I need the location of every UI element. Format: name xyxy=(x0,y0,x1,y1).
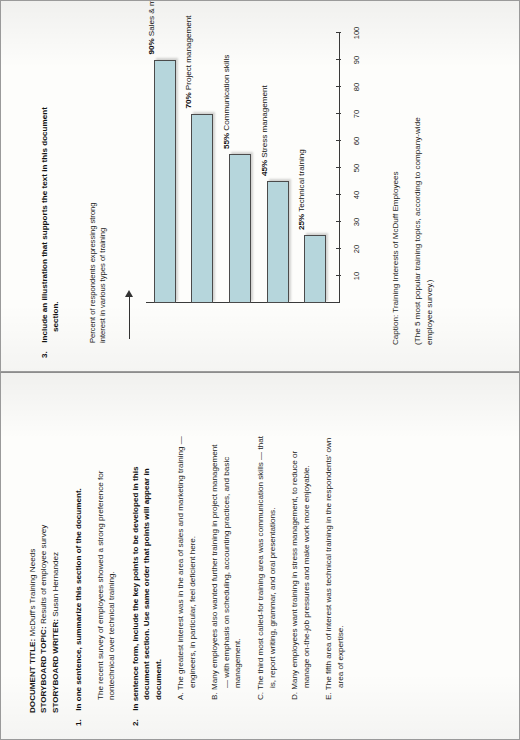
list-item-text: Many employees want training in stress m… xyxy=(290,451,311,690)
list-item-letter: B. xyxy=(210,692,219,700)
chart-axis-caption: Percent of respondents expressing strong… xyxy=(88,193,109,343)
chart-bar-row: 90% Sales & marketing training xyxy=(150,33,188,303)
storyboard-writer-line: STORYBOARD WRITER: Susan Hernandez xyxy=(50,395,61,713)
axis-tick-label: 50 xyxy=(352,164,361,172)
chart-bars: 90% Sales & marketing training70% Projec… xyxy=(150,33,338,303)
chart-bar xyxy=(229,155,251,304)
axis-tick-label: 20 xyxy=(352,245,361,253)
list-item-letter: A. xyxy=(176,692,185,700)
chart-bar xyxy=(154,60,176,303)
list-item: B. Many employees also wanted further tr… xyxy=(209,436,244,700)
list-item-letter: E. xyxy=(324,692,333,700)
axis-tick-label: 100 xyxy=(352,27,361,40)
axis-tick-label: 70 xyxy=(352,110,361,118)
chart-pointer-arrow xyxy=(124,189,136,339)
storyboard-left-page: DOCUMENT TITLE: McDuff's Training Needs … xyxy=(0,372,520,740)
figure-caption: Caption: Training Interests of McDuff Em… xyxy=(390,23,402,345)
section-3-heading-text: Include an illustration that supports th… xyxy=(40,107,60,343)
chart-bar-row: 45% Stress management xyxy=(263,33,301,303)
list-item-text: The fifth area of interest was technical… xyxy=(324,438,345,691)
section-3-heading: 3. Include an illustration that supports… xyxy=(39,82,62,345)
list-item: C. The third most called-for training ar… xyxy=(255,436,278,700)
list-item-letter: C. xyxy=(256,692,265,700)
axis-tick-label: 60 xyxy=(352,137,361,145)
arrow-line xyxy=(129,295,130,339)
figure-caption-note: (The 5 most popular training topics, acc… xyxy=(412,105,435,345)
document-title-label: DOCUMENT TITLE: xyxy=(28,639,37,713)
section-1-body: The recent survey of employees showed a … xyxy=(95,452,118,700)
chart-bar-label: 70% Project management xyxy=(184,15,193,108)
axis-tick-label: 30 xyxy=(352,218,361,226)
list-item: D. Many employees want training in stres… xyxy=(289,436,312,700)
chart-bar xyxy=(267,182,289,304)
axis-tick-label: 90 xyxy=(352,56,361,64)
chart-plot-area: 102030405060708090100 90% Sales & market… xyxy=(146,33,340,303)
chart-bar-label: 25% Technical training xyxy=(297,149,306,230)
list-item-text: The greatest interest was in the area of… xyxy=(176,436,197,690)
chart-bar-row: 70% Project management xyxy=(187,33,225,303)
axis-tick-label: 40 xyxy=(352,191,361,199)
chart-bar-label: 90% Sales & marketing training xyxy=(147,0,156,55)
list-item: A. The greatest interest was in the area… xyxy=(175,436,198,700)
chart-bar-label: 45% Stress management xyxy=(260,85,269,176)
section-2-heading-text: In sentence form, include the key points… xyxy=(131,467,163,711)
chart-bar-label: 55% Communication skills xyxy=(222,55,231,149)
list-item-letter: D. xyxy=(290,692,299,700)
document-header: DOCUMENT TITLE: McDuff's Training Needs … xyxy=(27,395,61,713)
training-interests-bar-chart: Percent of respondents expressing strong… xyxy=(84,23,384,345)
section-1-heading-text: In one sentence, summarize this section … xyxy=(74,488,83,711)
storyboard-writer-value: Susan Hernandez xyxy=(51,552,60,619)
document-title-value: McDuff's Training Needs xyxy=(28,549,37,639)
document-title-line: DOCUMENT TITLE: McDuff's Training Needs xyxy=(27,395,38,713)
scanned-page-spread: DOCUMENT TITLE: McDuff's Training Needs … xyxy=(0,0,520,740)
section-1-heading: 1. In one sentence, summarize this secti… xyxy=(73,450,84,713)
chart-bar xyxy=(304,236,326,304)
chart-bar-row: 25% Technical training xyxy=(300,33,338,303)
storyboard-writer-label: STORYBOARD WRITER: xyxy=(51,619,60,713)
arrow-head-icon xyxy=(125,290,133,297)
section-2-heading: 2. In sentence form, include the key poi… xyxy=(130,450,164,713)
chart-axis-ticks: 102030405060708090100 xyxy=(340,33,341,303)
storyboard-topic-label: STORYBOARD TOPIC: xyxy=(39,626,48,713)
list-item-text: The third most called-for training area … xyxy=(256,436,277,690)
storyboard-topic-value: Results of employee survey xyxy=(39,525,48,627)
storyboard-right-page: 3. Include an illustration that supports… xyxy=(0,0,520,372)
chart-bar xyxy=(191,114,213,303)
axis-tick-label: 10 xyxy=(352,272,361,280)
list-item-text: Many employees also wanted further train… xyxy=(210,444,242,690)
chart-bar-row: 55% Communication skills xyxy=(225,33,263,303)
list-item: E. The fifth area of interest was techni… xyxy=(323,436,346,700)
axis-tick-label: 80 xyxy=(352,83,361,91)
storyboard-topic-line: STORYBOARD TOPIC: Results of employee su… xyxy=(38,395,49,713)
